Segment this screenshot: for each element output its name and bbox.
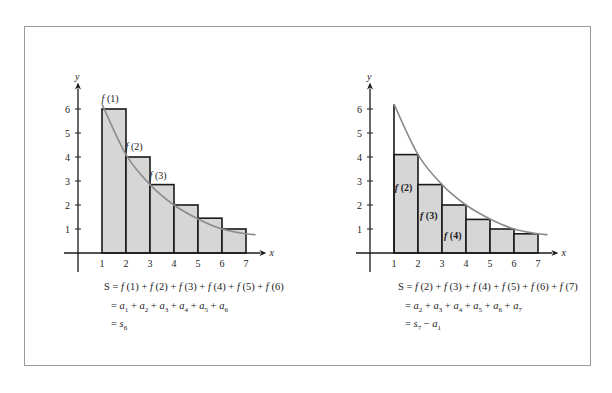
y-axis-arrow-icon [75,83,81,90]
bar-rectangle [514,234,538,253]
right-partial-sum-index: 7 [418,324,422,332]
right-chart: xy1234567123456f (2)f (3)f (4) [356,71,566,272]
x-tick-label: 7 [244,258,249,269]
function-value-label: f (2) [126,141,143,153]
x-tick-label: 5 [488,258,493,269]
y-tick-label: 1 [65,224,70,235]
x-tick-label: 4 [464,258,469,269]
bar-rectangle [490,229,514,253]
x-tick-label: 6 [512,258,517,269]
y-tick-label: 6 [357,104,362,115]
y-axis-arrow-icon [367,83,373,90]
right-sum-a-terms: = a2 + a3 + a4 + a5 + a6 + a7 [405,300,522,311]
left-partial-sum-index: 6 [124,324,128,332]
function-value-label: f (3) [420,210,438,222]
x-tick-label: 5 [196,258,201,269]
bar-rectangle [466,219,490,253]
y-tick-label: 5 [65,128,70,139]
x-tick-label: 2 [124,258,129,269]
left-sum-a-terms: = a1 + a2 + a3 + a4 + a5 + a6 [111,300,228,311]
function-value-label: f (1) [102,93,119,105]
y-tick-label: 2 [357,200,362,211]
x-tick-label: 1 [100,258,105,269]
diagram-canvas: xy1234567123456f (1)f (2)f (3)xy12345671… [0,0,612,393]
x-tick-label: 3 [148,258,153,269]
right-equation-line-2: = a2 + a3 + a4 + a5 + a6 + a7 [405,300,522,314]
left-sum-f-terms: S = f (1) + f (2) + f (3) + f (4) + f (5… [104,281,284,292]
x-axis-arrow-icon [259,250,266,256]
right-sum-f-terms: S = f (2) + f (3) + f (4) + f (5) + f (6… [398,281,578,292]
y-tick-label: 2 [65,200,70,211]
x-tick-label: 6 [220,258,225,269]
bar-rectangle [394,155,418,253]
x-tick-label: 1 [392,258,397,269]
y-tick-label: 3 [357,176,362,187]
x-tick-label: 3 [440,258,445,269]
function-value-label: f (4) [444,230,462,242]
function-value-label: f (2) [395,182,413,194]
y-axis-label: y [74,71,80,82]
x-tick-label: 2 [416,258,421,269]
x-axis-label: x [268,247,274,258]
y-tick-label: 4 [65,152,70,163]
left-equation-line-3: = s6 [111,318,127,332]
left-chart: xy1234567123456f (1)f (2)f (3) [64,71,274,272]
y-tick-label: 5 [357,128,362,139]
x-tick-label: 7 [536,258,541,269]
right-equation-line-1: S = f (2) + f (3) + f (4) + f (5) + f (6… [398,281,578,292]
x-axis-label: x [560,247,566,258]
left-equation-line-2: = a1 + a2 + a3 + a4 + a5 + a6 [111,300,228,314]
bar-rectangle [198,218,222,253]
x-tick-label: 4 [172,258,177,269]
right-first-term-index: 1 [438,324,442,332]
right-equation-line-3: = s7 − a1 [405,318,441,332]
y-axis-label: y [366,71,372,82]
y-tick-label: 3 [65,176,70,187]
y-tick-label: 1 [357,224,362,235]
y-tick-label: 6 [65,104,70,115]
left-equation-line-1: S = f (1) + f (2) + f (3) + f (4) + f (5… [104,281,284,292]
x-axis-arrow-icon [551,250,558,256]
y-tick-label: 4 [357,152,362,163]
function-value-label: f (3) [150,170,167,182]
